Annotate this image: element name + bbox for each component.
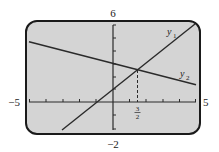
- xmin-label: −5: [8, 96, 20, 108]
- graph-figure: 6 −2 −5 5 3 2 y 1 y 2: [0, 0, 219, 152]
- fraction-denominator: 2: [136, 113, 140, 121]
- y1-label-main: y: [166, 26, 172, 37]
- y2-label-sub: 2: [186, 74, 190, 82]
- fraction-numerator: 3: [136, 105, 140, 113]
- y1-label-sub: 1: [173, 32, 177, 40]
- ymax-label: 6: [110, 7, 116, 19]
- y2-label-main: y: [179, 68, 185, 79]
- ymin-label: −2: [107, 138, 119, 150]
- xmax-label: 5: [203, 96, 209, 108]
